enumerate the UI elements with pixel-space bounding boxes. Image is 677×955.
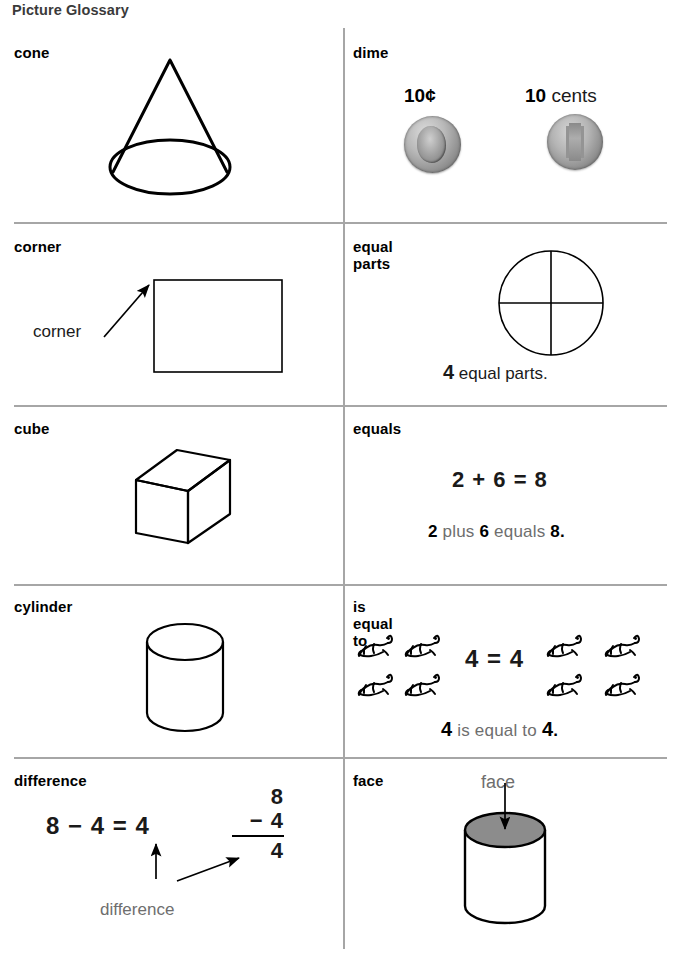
vertical-subtrahend: 4: [271, 808, 284, 833]
equals-sentence-a: 2: [428, 522, 438, 541]
is-equal-to-equation: 4 = 4: [465, 645, 524, 673]
frog-icon: [546, 631, 584, 659]
dime-value-words: 10 cents: [525, 85, 597, 107]
is-equal-to-sentence-b: 4: [542, 718, 553, 740]
term-label-cone: cone: [14, 44, 49, 61]
is-equal-to-sentence: 4 is equal to 4.: [441, 718, 558, 741]
row-divider-4: [14, 757, 667, 759]
term-label-equal-parts: equal parts: [353, 238, 393, 272]
equals-equation: 2 + 6 = 8: [452, 467, 548, 493]
equals-sentence-c: 8: [550, 522, 560, 541]
circle-divided-in-fourths-icon: [497, 240, 617, 360]
column-divider-row-5: [343, 759, 345, 949]
equals-sentence-op2: equals: [489, 522, 550, 541]
equal-parts-caption: 4 equal parts.: [443, 361, 548, 384]
term-label-corner: corner: [14, 238, 61, 255]
equal-parts-caption-text: equal parts.: [454, 364, 548, 383]
vertical-subtraction-line: − 4: [218, 809, 284, 833]
term-label-cube: cube: [14, 420, 49, 437]
picture-glossary-page: Picture Glossary cone dime 10¢ 10 cents …: [0, 0, 677, 955]
column-divider-row-1: [343, 28, 345, 222]
frog-icon: [604, 670, 642, 698]
column-divider-row-2: [343, 224, 345, 405]
equal-parts-count: 4: [443, 361, 454, 383]
frog-icon: [357, 631, 395, 659]
difference-horizontal-equation: 8 − 4 = 4: [46, 812, 150, 840]
cube-shape-icon: [125, 428, 245, 553]
is-equal-to-sentence-a: 4: [441, 718, 452, 740]
term-label-dime: dime: [353, 44, 388, 61]
term-label-cylinder: cylinder: [14, 598, 72, 615]
frog-icon: [604, 631, 642, 659]
term-label-equals: equals: [353, 420, 401, 437]
frog-icon: [357, 670, 395, 698]
column-divider-row-3: [343, 407, 345, 584]
vertical-operator: −: [250, 808, 264, 833]
row-divider-3: [14, 584, 667, 586]
term-label-difference: difference: [14, 772, 87, 789]
face-callout-label: face: [481, 772, 515, 793]
cylinder-with-shaded-face-icon: [455, 795, 585, 945]
equals-sentence-b: 6: [480, 522, 490, 541]
cone-shape-icon: [95, 52, 255, 202]
row-divider-1: [14, 222, 667, 224]
dime-value-symbol: 10¢: [404, 85, 436, 107]
dime-obverse-image: [404, 116, 461, 173]
page-title: Picture Glossary: [12, 2, 129, 18]
frog-icon: [404, 631, 442, 659]
vertical-rule: [232, 835, 284, 837]
difference-callout-label: difference: [100, 900, 174, 920]
frog-icon: [404, 670, 442, 698]
column-divider-row-4: [343, 586, 345, 757]
equals-sentence: 2 plus 6 equals 8.: [428, 522, 565, 542]
vertical-minuend: 8: [218, 785, 284, 809]
cylinder-shape-icon: [145, 618, 245, 743]
equals-sentence-op1: plus: [438, 522, 480, 541]
is-equal-to-sentence-period: .: [553, 721, 558, 740]
is-equal-to-sentence-op: is equal to: [452, 721, 542, 740]
row-divider-2: [14, 405, 667, 407]
frog-icon: [546, 670, 584, 698]
dime-reverse-image: [547, 114, 603, 170]
equals-sentence-period: .: [560, 522, 565, 541]
corner-callout-label: corner: [33, 322, 81, 342]
term-label-face: face: [353, 772, 383, 789]
